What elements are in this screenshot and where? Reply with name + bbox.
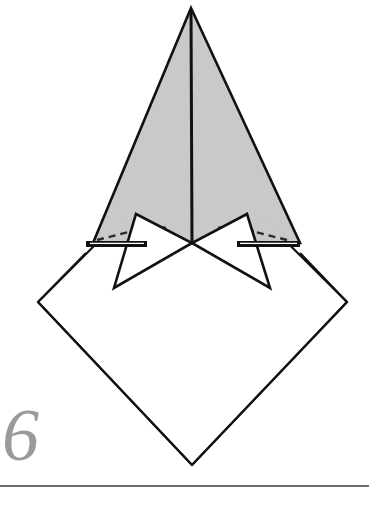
origami-figure-root bbox=[0, 0, 369, 505]
step-number: 6 bbox=[2, 398, 39, 472]
center-vertical-crease bbox=[191, 10, 192, 244]
footer-divider bbox=[0, 485, 369, 487]
origami-diagram-svg bbox=[0, 0, 369, 505]
